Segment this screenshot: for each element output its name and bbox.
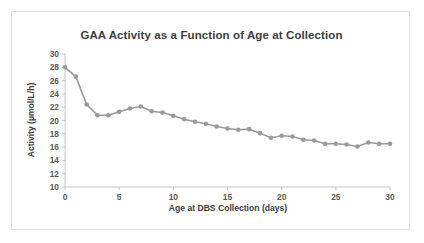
- x-axis: 051015202530 Age at DBS Collection (days…: [63, 187, 395, 213]
- y-tick-label: 24: [50, 89, 60, 99]
- x-tick-labels: 051015202530: [63, 192, 395, 202]
- data-point: [258, 131, 263, 136]
- data-point: [225, 126, 230, 131]
- x-tick-label: 0: [63, 192, 68, 202]
- y-tick-labels: 1012141618202224262830: [50, 49, 60, 192]
- series-line: [65, 67, 390, 146]
- data-point: [95, 113, 100, 118]
- data-point: [149, 109, 154, 114]
- x-axis-title: Age at DBS Collection (days): [169, 203, 288, 213]
- data-point: [279, 134, 284, 139]
- x-tick-label: 10: [169, 192, 179, 202]
- y-tick-label: 12: [50, 169, 60, 179]
- data-point: [377, 141, 382, 146]
- data-point: [269, 135, 274, 140]
- data-point: [247, 127, 252, 132]
- data-point: [139, 104, 144, 109]
- data-point: [63, 65, 68, 70]
- y-tick-marks: [62, 54, 65, 187]
- data-point: [117, 110, 122, 115]
- data-point: [193, 120, 198, 125]
- data-point: [366, 140, 371, 145]
- y-tick-label: 26: [50, 76, 60, 86]
- data-point: [214, 124, 219, 129]
- data-point: [128, 106, 133, 111]
- data-point: [236, 128, 241, 133]
- data-point: [344, 142, 349, 147]
- series-markers: [63, 65, 393, 149]
- data-point: [171, 114, 176, 119]
- y-axis: 1012141618202224262830 Activity (µmol/L/…: [26, 49, 65, 192]
- data-point: [106, 113, 111, 118]
- data-point: [290, 134, 295, 139]
- data-point: [204, 122, 209, 127]
- chart-plot-area: 1012141618202224262830 Activity (µmol/L/…: [12, 12, 411, 231]
- y-tick-label: 16: [50, 142, 60, 152]
- data-point: [323, 141, 328, 146]
- data-point: [84, 102, 89, 107]
- x-tick-label: 30: [385, 192, 395, 202]
- x-tick-label: 5: [117, 192, 122, 202]
- chart-container: GAA Activity as a Function of Age at Col…: [11, 11, 410, 230]
- y-tick-label: 30: [50, 49, 60, 59]
- y-tick-label: 14: [50, 155, 60, 165]
- y-tick-label: 28: [50, 62, 60, 72]
- y-tick-label: 22: [50, 102, 60, 112]
- data-point: [301, 137, 306, 142]
- data-point: [160, 110, 165, 115]
- x-tick-label: 20: [277, 192, 287, 202]
- y-tick-label: 20: [50, 116, 60, 126]
- x-tick-label: 25: [331, 192, 341, 202]
- x-tick-label: 15: [223, 192, 233, 202]
- data-point: [355, 144, 360, 149]
- data-point: [74, 74, 79, 79]
- y-tick-label: 18: [50, 129, 60, 139]
- x-tick-marks: [65, 187, 390, 190]
- data-point: [334, 141, 339, 146]
- y-tick-label: 10: [50, 182, 60, 192]
- y-axis-title: Activity (µmol/L/h): [26, 83, 36, 158]
- data-point: [388, 141, 393, 146]
- data-point: [312, 138, 317, 143]
- data-point: [182, 117, 187, 122]
- data-series-gaa-activity: [63, 65, 393, 149]
